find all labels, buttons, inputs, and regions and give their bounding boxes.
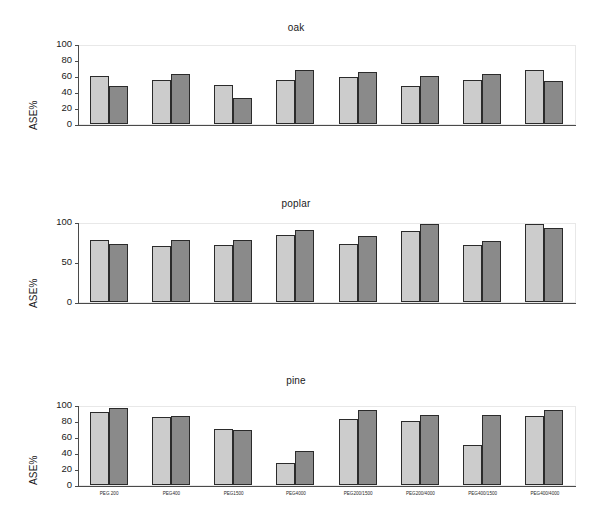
x-tick-label: PEG200/4000 (389, 491, 451, 496)
y-tick-label: 50 (40, 256, 72, 267)
x-tick-label: PEG400 (140, 491, 202, 496)
bar (233, 240, 252, 302)
bar-group (463, 224, 501, 302)
bar (420, 415, 439, 485)
y-axis-label-poplar: ASE% (28, 278, 39, 308)
bar-group (339, 46, 377, 124)
bar-groups-pine (78, 407, 575, 485)
y-tick-label: 0 (40, 479, 72, 490)
bar (171, 74, 190, 124)
bar (214, 85, 233, 124)
y-tick-mark (75, 223, 79, 224)
x-axis-line-oak (78, 125, 576, 126)
y-tick-label: 40 (40, 447, 72, 458)
bar-group (339, 224, 377, 302)
y-tick-mark (75, 109, 79, 110)
bar (525, 416, 544, 485)
panel-pine: pine ASE% 100806040200 PEG 200PEG400PEG1… (0, 375, 592, 505)
y-tick-mark (75, 61, 79, 62)
bar (90, 412, 109, 485)
bar-group (152, 224, 190, 302)
y-tick-mark (75, 422, 79, 423)
plot-area-oak (78, 45, 576, 125)
bar-group (339, 407, 377, 485)
bar (339, 419, 358, 485)
bar (358, 236, 377, 302)
y-tick-label: 60 (40, 70, 72, 81)
y-tick-mark (75, 125, 79, 126)
x-tick-label: PEG400/1500 (452, 491, 514, 496)
bar (544, 228, 563, 302)
y-tick-mark (75, 470, 79, 471)
bar (214, 245, 233, 302)
figure-bar-chart-panels: oak ASE% 100806040200 poplar ASE% 100500… (0, 0, 592, 529)
bar (544, 410, 563, 485)
y-tick-mark (75, 45, 79, 46)
bar (152, 246, 171, 302)
bar-group (463, 46, 501, 124)
x-axis-labels: PEG 200PEG400PEG1500PEG4000PEG200/1500PE… (78, 491, 576, 496)
bar-group (90, 46, 128, 124)
bar (171, 240, 190, 302)
bar (525, 70, 544, 124)
bar-group (214, 224, 252, 302)
plot-area-poplar (78, 223, 576, 303)
bar (276, 235, 295, 302)
bar (295, 451, 314, 485)
y-tick-label: 0 (40, 118, 72, 129)
y-tick-mark (75, 406, 79, 407)
y-tick-label: 100 (40, 38, 72, 49)
bar (152, 417, 171, 485)
panel-title-pine: pine (0, 375, 592, 386)
bar (358, 72, 377, 124)
bar (109, 86, 128, 124)
bar-group (401, 46, 439, 124)
bar (463, 445, 482, 485)
bar (420, 76, 439, 124)
bar-group (401, 407, 439, 485)
y-tick-label: 40 (40, 86, 72, 97)
y-axis-line-oak (78, 45, 79, 126)
bar (109, 244, 128, 302)
bar-group (525, 407, 563, 485)
y-tick-mark (75, 77, 79, 78)
x-tick-label: PEG4000 (265, 491, 327, 496)
bar (358, 410, 377, 485)
y-axis-label-oak: ASE% (28, 100, 39, 130)
y-tick-mark (75, 263, 79, 264)
y-axis-line-pine (78, 406, 79, 487)
panel-title-poplar: poplar (0, 198, 592, 209)
bar (214, 429, 233, 485)
bar (276, 80, 295, 124)
y-tick-label: 20 (40, 102, 72, 113)
bar (420, 224, 439, 302)
bar (109, 408, 128, 485)
bar-groups-poplar (78, 224, 575, 302)
y-tick-label: 80 (40, 415, 72, 426)
y-axis-label-pine: ASE% (28, 455, 39, 485)
bar (463, 80, 482, 124)
bar (401, 231, 420, 302)
x-tick-label: PEG200/1500 (327, 491, 389, 496)
x-axis-line-pine (78, 486, 576, 487)
bar-group (90, 407, 128, 485)
bar (295, 230, 314, 302)
bar-group (525, 224, 563, 302)
bar (544, 81, 563, 124)
bar-group (463, 407, 501, 485)
bar-group (152, 46, 190, 124)
panel-poplar: poplar ASE% 100500 (0, 198, 592, 313)
bar (152, 80, 171, 124)
y-tick-label: 0 (40, 296, 72, 307)
bar-group (90, 224, 128, 302)
y-tick-mark (75, 486, 79, 487)
panel-title-oak: oak (0, 22, 592, 33)
bar-group (214, 46, 252, 124)
x-axis-line-poplar (78, 303, 576, 304)
bar (233, 98, 252, 124)
y-tick-mark (75, 93, 79, 94)
bar (482, 241, 501, 302)
panel-oak: oak ASE% 100806040200 (0, 22, 592, 132)
bar (233, 430, 252, 485)
y-tick-label: 60 (40, 431, 72, 442)
